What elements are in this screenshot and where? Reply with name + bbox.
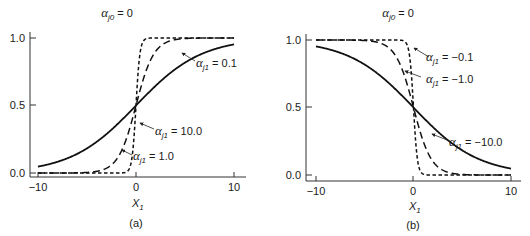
annotation-alpha-0-1: αj1 = 0.1 [196, 55, 237, 72]
y-tick-label: 0.5 [10, 99, 25, 111]
x-axis-label: X1 [408, 200, 421, 215]
ann-value: = −10.0 [462, 136, 502, 148]
ann-value: = 1.0 [146, 150, 174, 162]
ann-sub: j1 [432, 79, 439, 88]
y-tick-label: 1.0 [10, 32, 25, 44]
x-tick-label: 10 [505, 185, 517, 197]
x-axis-label: X1 [131, 197, 144, 212]
panel-a-title: αj0 = 0 [101, 5, 133, 22]
annotation-alpha-neg-0-1: αj1 = −0.1 [426, 49, 473, 66]
ann-sub: j1 [432, 57, 439, 66]
panel-label: (b) [406, 219, 419, 231]
annotation-alpha-1-0: αj1 = 1.0 [133, 148, 174, 165]
y-tick-label: 0.0 [10, 167, 25, 179]
panel-a: αj0 = 0 1.0 0.5 0.0 −10 0 10 X1 (a) αj1 … [10, 5, 246, 229]
annotation-arrow [140, 123, 154, 129]
curve-solid [316, 46, 511, 168]
panel-label: (a) [129, 217, 142, 229]
x-tick-label: 0 [133, 181, 139, 193]
panel-b: αj0 = 0 1.0 0.5 0.0 −10 0 10 X1 (b) αj1 … [286, 5, 521, 231]
ann-value: = −1.0 [439, 73, 473, 85]
x-tick-label: −10 [29, 181, 48, 193]
x-tick-label: 0 [410, 185, 416, 197]
ann-sub: j1 [161, 131, 168, 140]
annotation-alpha-neg-10-0: αj1 = −10.0 [449, 134, 502, 151]
y-tick-label: 0.5 [286, 101, 301, 113]
title-value: = 0 [114, 7, 133, 19]
ann-sub: j1 [202, 63, 209, 72]
ann-sub: j1 [455, 142, 462, 151]
x-tick-label: 10 [228, 181, 240, 193]
ann-sub: j1 [139, 156, 146, 165]
x-label-subscript: 1 [139, 203, 143, 212]
ann-value: = −0.1 [439, 51, 473, 63]
panel-b-title: αj0 = 0 [382, 5, 414, 22]
annotation-alpha-neg-1-0: αj1 = −1.0 [426, 71, 473, 88]
title-value: = 0 [395, 7, 414, 19]
y-tick-label: 1.0 [286, 34, 301, 46]
y-tick-label: 0.0 [286, 169, 301, 181]
x-tick-label: −10 [307, 185, 326, 197]
ann-value: = 0.1 [209, 57, 237, 69]
annotation-arrow [122, 150, 132, 155]
annotation-alpha-10-0: αj1 = 10.0 [155, 123, 202, 140]
annotation-arrow [405, 71, 421, 77]
ann-value: = 10.0 [168, 125, 202, 137]
x-label-subscript: 1 [416, 206, 420, 215]
figure: αj0 = 0 1.0 0.5 0.0 −10 0 10 X1 (a) αj1 … [0, 0, 530, 236]
